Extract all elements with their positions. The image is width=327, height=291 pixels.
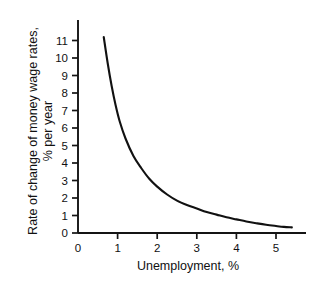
y-tick-label-5: 5 [62, 140, 68, 152]
x-axis-tick-labels: 012345 [75, 242, 279, 254]
axes-group [78, 20, 306, 233]
y-axis-title: Rate of change of money wage rates, % pe… [26, 22, 56, 240]
phillips-curve-line [104, 37, 292, 227]
x-tick-label-1: 1 [114, 242, 120, 254]
y-tick-label-0: 0 [62, 227, 68, 239]
y-tick-label-4: 4 [62, 157, 69, 169]
x-tick-label-2: 2 [154, 242, 160, 254]
y-tick-label-10: 10 [55, 52, 68, 64]
y-tick-label-2: 2 [62, 192, 68, 204]
y-tick-label-9: 9 [62, 70, 68, 82]
x-tick-label-5: 5 [273, 242, 279, 254]
y-axis-title-line1: Rate of change of money wage rates, [26, 22, 41, 240]
y-tick-label-3: 3 [62, 175, 68, 187]
y-tick-label-6: 6 [62, 122, 68, 134]
phillips-curve-chart: 01234567891011 012345 Unemployment, % Ra… [0, 0, 327, 291]
x-tick-label-4: 4 [233, 242, 240, 254]
y-axis-title-line2: % per year [41, 22, 56, 240]
x-tick-label-0: 0 [75, 242, 81, 254]
y-tick-label-11: 11 [56, 35, 68, 47]
y-tick-label-1: 1 [62, 210, 68, 222]
x-tick-label-3: 3 [194, 242, 200, 254]
y-tick-label-8: 8 [62, 87, 68, 99]
y-axis-tick-labels: 01234567891011 [55, 35, 68, 240]
y-tick-label-7: 7 [62, 105, 68, 117]
x-axis-title: Unemployment, % [78, 259, 298, 273]
